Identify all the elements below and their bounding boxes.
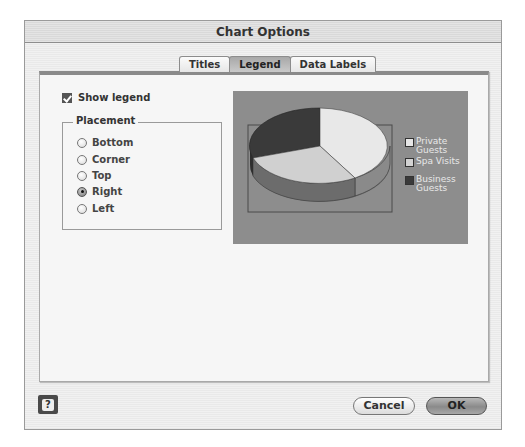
chart-preview: PrivateGuests Spa Visits BusinessGuests xyxy=(233,91,468,244)
radio-right[interactable] xyxy=(77,187,87,197)
legend-item-business-guests: BusinessGuests xyxy=(405,175,467,193)
legend-text: Guests xyxy=(416,183,447,193)
radio-corner[interactable] xyxy=(77,155,87,165)
radio-label-left: Left xyxy=(92,203,114,214)
help-button[interactable]: ? xyxy=(38,395,58,414)
swatch-spa-visits xyxy=(405,158,414,167)
placement-option-right[interactable]: Right xyxy=(77,186,122,197)
title-bar[interactable]: Chart Options xyxy=(25,21,501,43)
cancel-button[interactable]: Cancel xyxy=(353,397,415,415)
legend-text: Spa Visits xyxy=(416,156,460,166)
placement-option-left[interactable]: Left xyxy=(77,203,114,214)
legend-panel: Show legend Placement Bottom Corner Top … xyxy=(39,71,489,382)
swatch-business-guests xyxy=(405,176,414,185)
help-icon: ? xyxy=(42,399,54,411)
legend-text: Guests xyxy=(416,145,447,155)
tab-bar: Titles Legend Data Labels xyxy=(179,56,375,73)
radio-label-corner: Corner xyxy=(92,154,130,165)
show-legend-option[interactable]: Show legend xyxy=(62,92,150,103)
legend-item-private-guests: PrivateGuests xyxy=(405,137,467,155)
placement-option-corner[interactable]: Corner xyxy=(77,154,130,165)
radio-label-top: Top xyxy=(92,170,112,181)
radio-bottom[interactable] xyxy=(77,138,87,148)
placement-label: Placement xyxy=(73,115,138,126)
tab-data-labels[interactable]: Data Labels xyxy=(290,56,377,72)
tab-titles[interactable]: Titles xyxy=(179,56,230,72)
ok-button[interactable]: OK xyxy=(426,397,487,415)
dialog-title: Chart Options xyxy=(216,25,310,39)
radio-label-bottom: Bottom xyxy=(92,137,133,148)
pie-chart-preview xyxy=(233,91,468,244)
placement-group: Placement Bottom Corner Top Right Left xyxy=(62,122,222,230)
show-legend-label: Show legend xyxy=(78,92,150,103)
chart-options-dialog: Chart Options Titles Legend Data Labels … xyxy=(24,20,502,430)
radio-top[interactable] xyxy=(77,171,87,181)
tab-legend[interactable]: Legend xyxy=(229,56,290,72)
placement-option-top[interactable]: Top xyxy=(77,170,112,181)
radio-left[interactable] xyxy=(77,204,87,214)
show-legend-checkbox[interactable] xyxy=(62,93,72,103)
radio-label-right: Right xyxy=(92,186,122,197)
placement-option-bottom[interactable]: Bottom xyxy=(77,137,133,148)
legend-item-spa-visits: Spa Visits xyxy=(405,157,467,167)
swatch-private-guests xyxy=(405,138,414,147)
